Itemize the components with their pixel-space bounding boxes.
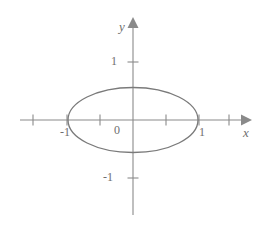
y-tick-label-positive-one: 1 <box>111 55 117 67</box>
x-axis-arrowhead <box>241 115 252 126</box>
origin-label: 0 <box>114 124 120 136</box>
x-axis-label: x <box>243 126 249 139</box>
plot-svg <box>0 0 270 230</box>
x-tick-label-positive-one: 1 <box>199 126 205 138</box>
x-tick-label-negative-one: -1 <box>60 126 70 138</box>
y-axis-arrowhead <box>128 17 139 28</box>
y-tick-label-negative-one: -1 <box>103 171 113 183</box>
figure-canvas: y x -1 1 0 1 -1 <box>0 0 270 230</box>
y-axis-label: y <box>119 20 125 33</box>
